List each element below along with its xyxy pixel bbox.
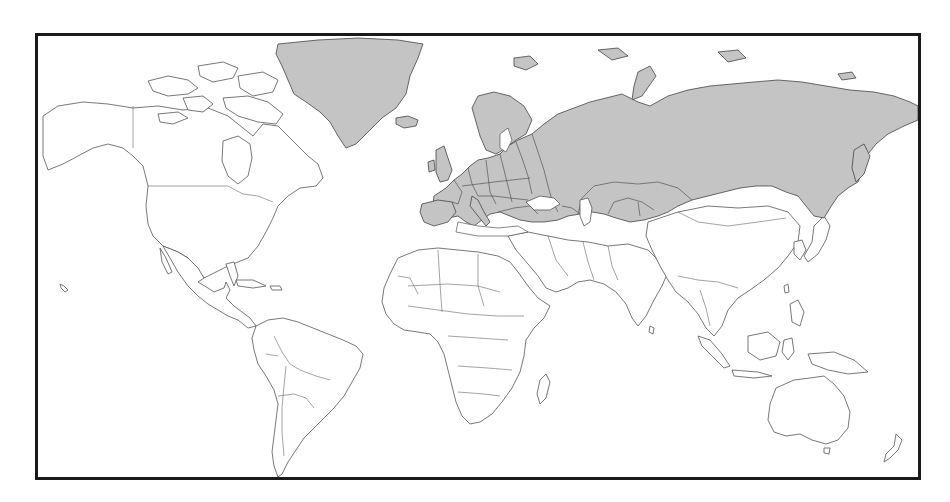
world-map bbox=[38, 36, 918, 477]
region-iceland bbox=[396, 116, 418, 128]
region-north-america bbox=[43, 62, 323, 328]
region-greenland bbox=[276, 38, 423, 148]
region-east-asia bbox=[646, 206, 868, 378]
region-europe-russia-central-asia bbox=[420, 48, 918, 226]
world-map-frame: World map with Greenland, Europe, Russia… bbox=[35, 33, 921, 480]
region-oceania bbox=[768, 376, 902, 462]
region-south-america bbox=[252, 318, 363, 477]
region-africa bbox=[382, 248, 550, 424]
